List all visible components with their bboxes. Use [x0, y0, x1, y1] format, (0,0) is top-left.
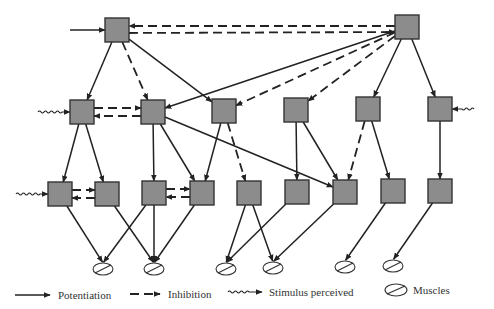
potentiation-edge-B3-M1: [104, 205, 146, 262]
potentiation-edge-A4-B6: [296, 122, 297, 180]
potentiation-edge-A1-B2: [86, 124, 104, 182]
neuron-node-B1: [48, 182, 72, 206]
muscle-icon-M2: [144, 263, 164, 275]
neuron-node-B8: [381, 179, 405, 203]
potentiation-edge-B4-M2: [155, 205, 195, 262]
inhibition-edge-A3-B5: [228, 123, 246, 181]
neuron-node-B6: [285, 180, 309, 204]
neuron-node-A2: [141, 100, 165, 124]
muscle-icon: [385, 284, 407, 296]
stimulus-input-A6: [452, 108, 474, 110]
legend-muscles-label: Muscles: [413, 284, 450, 296]
potentiation-edge-B8-M5: [346, 203, 386, 260]
neural-network-diagram: Potentiation Inhibition Stimulus perceiv…: [0, 0, 494, 309]
edges-layer: [63, 26, 440, 262]
neuron-node-B2: [95, 182, 119, 206]
potentiation-edge-A5-B8: [372, 121, 390, 179]
neuron-node-B7: [333, 180, 357, 204]
potentiation-edge-T1-A3: [129, 39, 212, 102]
legend-inhibition: Inhibition: [130, 288, 212, 300]
potentiation-edge-A3-B4: [205, 123, 221, 181]
neuron-node-A3: [212, 99, 236, 123]
stimulus-wavy-arrow-icon: [228, 291, 262, 293]
nodes-layer: [48, 15, 452, 206]
legend-stimulus: Stimulus perceived: [228, 286, 354, 298]
neuron-node-B5: [237, 181, 261, 205]
muscle-icon-M4: [263, 262, 283, 274]
legend-inhibition-label: Inhibition: [168, 288, 212, 300]
neuron-node-B4: [190, 181, 214, 205]
neuron-node-B3: [142, 181, 166, 205]
inhibition-edge-T1-T2: [129, 32, 395, 33]
legend-potentiation-label: Potentiation: [58, 289, 112, 301]
potentiation-edge-A2-B4: [160, 124, 194, 181]
legend-potentiation: Potentiation: [15, 289, 112, 301]
inhibition-edge-A5-B7: [348, 121, 364, 180]
potentiation-edge-B1-M1: [67, 206, 103, 262]
muscle-icon-M5: [335, 261, 355, 273]
neuron-node-A5: [356, 97, 380, 121]
neuron-node-A4: [284, 98, 308, 122]
neuron-node-A6: [428, 97, 452, 121]
muscle-icon-M6: [383, 260, 403, 272]
potentiation-edge-A2-B7: [165, 117, 333, 187]
potentiation-edge-T1-A1: [87, 42, 112, 100]
neuron-node-A1: [70, 100, 94, 124]
neuron-node-T1: [105, 18, 129, 42]
stimulus-input-B1: [16, 193, 48, 195]
potentiation-edge-T2-A6: [412, 39, 435, 97]
neuron-node-B9: [428, 179, 452, 203]
legend-muscles: Muscles: [385, 284, 450, 296]
stimulus-input-A1: [38, 111, 70, 113]
potentiation-edge-A1-B1: [63, 124, 79, 182]
legend-stimulus-label: Stimulus perceived: [269, 286, 354, 298]
potentiation-edge-A4-B7: [303, 122, 338, 180]
muscle-icon-M1: [93, 263, 113, 275]
neuron-node-T2: [395, 15, 419, 39]
legend: Potentiation Inhibition Stimulus perceiv…: [15, 284, 450, 301]
potentiation-edge-B9-M6: [394, 203, 433, 259]
potentiation-edge-A2-B3: [153, 124, 154, 181]
muscle-icon-M3: [216, 263, 236, 275]
muscles-layer: [93, 260, 403, 275]
potentiation-edge-B2-M2: [115, 206, 154, 262]
potentiation-edge-B7-M4: [274, 204, 334, 261]
